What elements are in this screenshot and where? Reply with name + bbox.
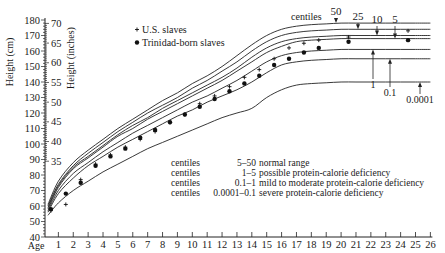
x-tick-label: 18 xyxy=(306,239,317,250)
y-tick-label-cm: 150 xyxy=(24,61,40,72)
y-tick-label-in: 50 xyxy=(51,97,62,108)
y-tick-label-cm: 160 xyxy=(24,46,40,57)
x-axis-title: Age xyxy=(28,240,45,251)
us-slave-point xyxy=(213,94,217,98)
centile-label: 0.1 xyxy=(384,87,397,98)
y-tick-label-in: 60 xyxy=(51,57,62,68)
trinidad-point xyxy=(257,74,261,78)
y-tick-label-in: 55 xyxy=(51,77,62,88)
legend-label: U.S. slaves xyxy=(142,24,187,35)
annotation-prefix: centiles xyxy=(171,188,200,198)
y-tick-label-cm: 110 xyxy=(25,123,40,134)
x-tick-label: 19 xyxy=(321,239,332,250)
annotation-meaning: severe protein-calorie deficiency xyxy=(259,188,384,198)
y-axis-title-in: Height (inches) xyxy=(65,27,77,89)
trinidad-point xyxy=(272,63,276,67)
y-tick-label-in: 70 xyxy=(51,18,62,29)
y-tick-label-cm: 100 xyxy=(24,139,40,150)
y-tick-label-cm: 80 xyxy=(30,170,41,181)
x-tick-label: 3 xyxy=(86,239,91,250)
x-tick-label: 25 xyxy=(410,239,421,250)
y-tick-label-cm: 60 xyxy=(30,201,41,212)
annotation-meaning: mild to moderate protein-calorie deficie… xyxy=(259,178,424,188)
centile-label: 10 xyxy=(372,13,384,25)
trinidad-point xyxy=(406,38,410,42)
trinidad-point xyxy=(346,40,350,44)
us-slave-point xyxy=(79,178,83,182)
trinidad-point xyxy=(64,191,68,195)
x-tick-label: 6 xyxy=(130,239,135,250)
x-tick-label: 13 xyxy=(232,239,243,250)
x-tick-label: 12 xyxy=(217,239,228,250)
trinidad-point xyxy=(287,57,291,61)
trinidad-point xyxy=(242,81,246,85)
centile-labels: centiles502510510.10.0001 xyxy=(291,5,434,105)
y-tick-label-cm: 130 xyxy=(24,92,40,103)
trinidad-point xyxy=(317,46,321,50)
x-tick-label: 8 xyxy=(160,239,165,250)
y-tick-label-cm: 180 xyxy=(24,15,40,26)
centile-annotations: centiles5–50normal rangecentiles1–5possi… xyxy=(171,158,424,198)
x-tick-label: 26 xyxy=(425,239,436,250)
x-tick-label: 21 xyxy=(351,239,362,250)
trinidad-point xyxy=(302,50,306,54)
x-tick-label: 2 xyxy=(71,239,76,250)
us-slave-point xyxy=(257,68,261,72)
x-tick-label: 5 xyxy=(115,239,120,250)
y-tick-label-in: 45 xyxy=(51,116,62,127)
centiles-header: centiles xyxy=(291,11,322,22)
annotation-range: 0.0001–0.1 xyxy=(213,188,256,198)
annotation-prefix: centiles xyxy=(171,168,200,178)
y-tick-label-cm: 120 xyxy=(24,108,40,119)
legend-label: Trinidad-born slaves xyxy=(142,37,225,48)
annotation-range: 5–50 xyxy=(237,158,256,168)
x-tick-label: 17 xyxy=(291,239,302,250)
x-tick-label: 16 xyxy=(276,239,287,250)
y-tick-label-cm: 50 xyxy=(30,216,41,227)
legend: U.S. slavesTrinidad-born slaves xyxy=(135,24,225,48)
x-tick-label: 10 xyxy=(187,239,198,250)
y-tick-label-cm: 170 xyxy=(24,30,40,41)
x-tick-label: 15 xyxy=(261,239,272,250)
annotation-range: 0.1–1 xyxy=(235,178,257,188)
x-tick-label: 7 xyxy=(145,239,150,250)
x-tick-label: 20 xyxy=(336,239,347,250)
us-slave-point xyxy=(242,75,246,79)
centile-label: 50 xyxy=(331,5,343,17)
plus-marker-icon xyxy=(135,28,139,32)
y-tick-label-cm: 70 xyxy=(30,185,41,196)
y-tick-label-cm: 90 xyxy=(30,154,41,165)
us-slave-point xyxy=(302,41,306,45)
us-slave-point xyxy=(287,46,291,50)
y-tick-label-in: 65 xyxy=(51,38,62,49)
centile-label: 0.0001 xyxy=(406,94,434,105)
annotation-prefix: centiles xyxy=(171,158,200,168)
annotation-meaning: normal range xyxy=(259,158,309,168)
x-tick-label: 24 xyxy=(395,239,406,250)
x-tick-label: 14 xyxy=(247,239,258,250)
growth-chart: 4050607080901001101201301401501601701803… xyxy=(0,0,445,253)
x-tick-label: 1 xyxy=(56,239,61,250)
y-tick-label-in: 40 xyxy=(51,136,62,147)
x-tick-label: 9 xyxy=(175,239,180,250)
x-tick-label: 11 xyxy=(202,239,212,250)
y-axis-title-cm: Height (cm) xyxy=(4,38,16,87)
axes: 4050607080901001101201301401501601701803… xyxy=(4,15,436,252)
x-tick-label: 22 xyxy=(366,239,377,250)
centile-label: 25 xyxy=(353,10,365,22)
us-slave-point xyxy=(64,202,68,206)
annotation-range: 1–5 xyxy=(242,168,257,178)
y-tick-label-cm: 140 xyxy=(24,77,40,88)
us-slave-point xyxy=(317,38,321,42)
annotation-prefix: centiles xyxy=(171,178,200,188)
y-tick-label-in: 35 xyxy=(51,156,62,167)
centile-label: 5 xyxy=(392,13,398,25)
annotation-meaning: possible protein-calorie deficiency xyxy=(259,168,391,178)
x-tick-label: 4 xyxy=(100,239,106,250)
x-tick-label: 23 xyxy=(380,239,391,250)
centile-label: 1 xyxy=(371,79,376,90)
trinidad-point xyxy=(227,89,231,93)
dot-marker-icon xyxy=(135,40,139,44)
